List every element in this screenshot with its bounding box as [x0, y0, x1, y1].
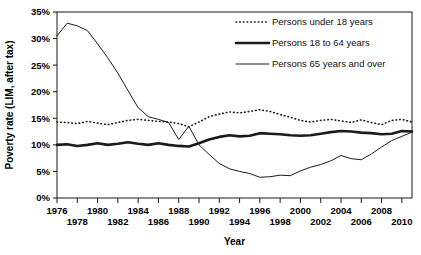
x-tick-label: 1988: [168, 205, 189, 216]
series-line-thick: [57, 131, 412, 146]
y-axis-tick-marks: [53, 12, 57, 198]
series-line-dotted: [57, 110, 412, 127]
x-tick-label: 1996: [249, 205, 270, 216]
x-tick-label: 2008: [371, 205, 392, 216]
y-axis-tick-labels: 0%5%10%15%20%25%30%35%: [31, 6, 51, 203]
x-tick-label: 1994: [229, 216, 251, 227]
x-tick-label: 1982: [107, 216, 128, 227]
chart-legend: Persons under 18 yearsPersons 18 to 64 y…: [236, 16, 386, 69]
x-axis-tick-labels: 1976197819801982198419861988199019921994…: [46, 205, 412, 227]
x-tick-label: 1978: [67, 216, 88, 227]
y-tick-label: 30%: [31, 33, 51, 44]
x-tick-label: 1980: [87, 205, 108, 216]
x-axis-title: Year: [224, 236, 245, 247]
poverty-rate-chart: 0%5%10%15%20%25%30%35% 19761978198019821…: [0, 0, 421, 255]
x-tick-label: 1976: [46, 205, 67, 216]
y-axis-title: Poverty rate (LIM, after tax): [4, 41, 15, 170]
x-tick-label: 1992: [209, 205, 230, 216]
y-tick-label: 20%: [31, 86, 51, 97]
x-tick-label: 1984: [128, 205, 150, 216]
y-tick-label: 5%: [36, 166, 50, 177]
y-tick-label: 35%: [31, 6, 51, 17]
y-tick-label: 10%: [31, 139, 51, 150]
x-tick-label: 2010: [391, 216, 412, 227]
x-tick-label: 1998: [270, 216, 291, 227]
x-tick-label: 2000: [290, 205, 311, 216]
x-tick-label: 1986: [148, 216, 169, 227]
y-tick-label: 25%: [31, 60, 51, 71]
legend-label: Persons 18 to 64 years: [272, 37, 370, 48]
legend-label: Persons 65 years and over: [272, 58, 386, 69]
y-tick-label: 15%: [31, 113, 51, 124]
x-tick-label: 2006: [351, 216, 372, 227]
x-axis-tick-marks: [57, 198, 402, 203]
x-tick-label: 1990: [188, 216, 209, 227]
y-tick-label: 0%: [36, 192, 50, 203]
x-tick-label: 2002: [310, 216, 331, 227]
legend-label: Persons under 18 years: [272, 16, 373, 27]
chart-svg: 0%5%10%15%20%25%30%35% 19761978198019821…: [0, 0, 421, 255]
x-tick-label: 2004: [330, 205, 352, 216]
